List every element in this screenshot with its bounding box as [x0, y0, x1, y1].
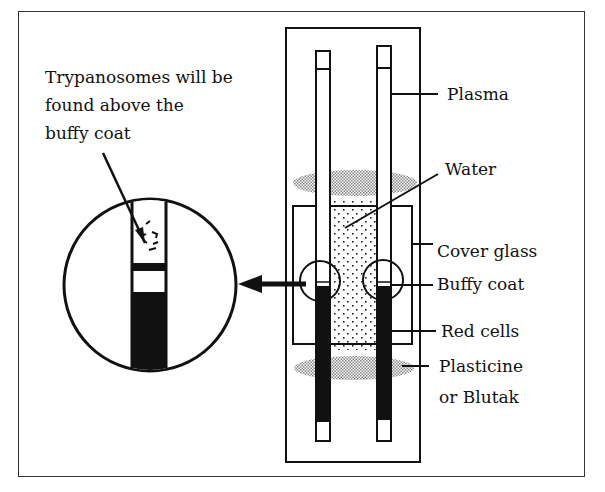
label-buffy-coat: Buffy coat — [437, 276, 524, 293]
label-blutak: or Blutak — [439, 389, 519, 406]
capillary-tube-left — [315, 51, 331, 441]
caption-line-2: found above the — [45, 91, 233, 119]
plasticine-bottom — [294, 356, 414, 380]
capillary-tube-right — [376, 46, 392, 441]
label-water: Water — [445, 161, 496, 178]
label-plasticine: Plasticine — [439, 358, 523, 375]
plasticine-top — [293, 170, 417, 196]
trypanosome-caption: Trypanosomes will be found above the buf… — [45, 63, 233, 147]
label-cover-glass: Cover glass — [437, 243, 537, 260]
caption-line-3: buffy coat — [45, 119, 233, 147]
magnify-arrow-head — [238, 275, 262, 293]
label-plasma: Plasma — [447, 86, 509, 103]
magnified-view — [64, 195, 236, 382]
caption-line-1: Trypanosomes will be — [45, 63, 233, 91]
label-red-cells: Red cells — [441, 323, 519, 340]
